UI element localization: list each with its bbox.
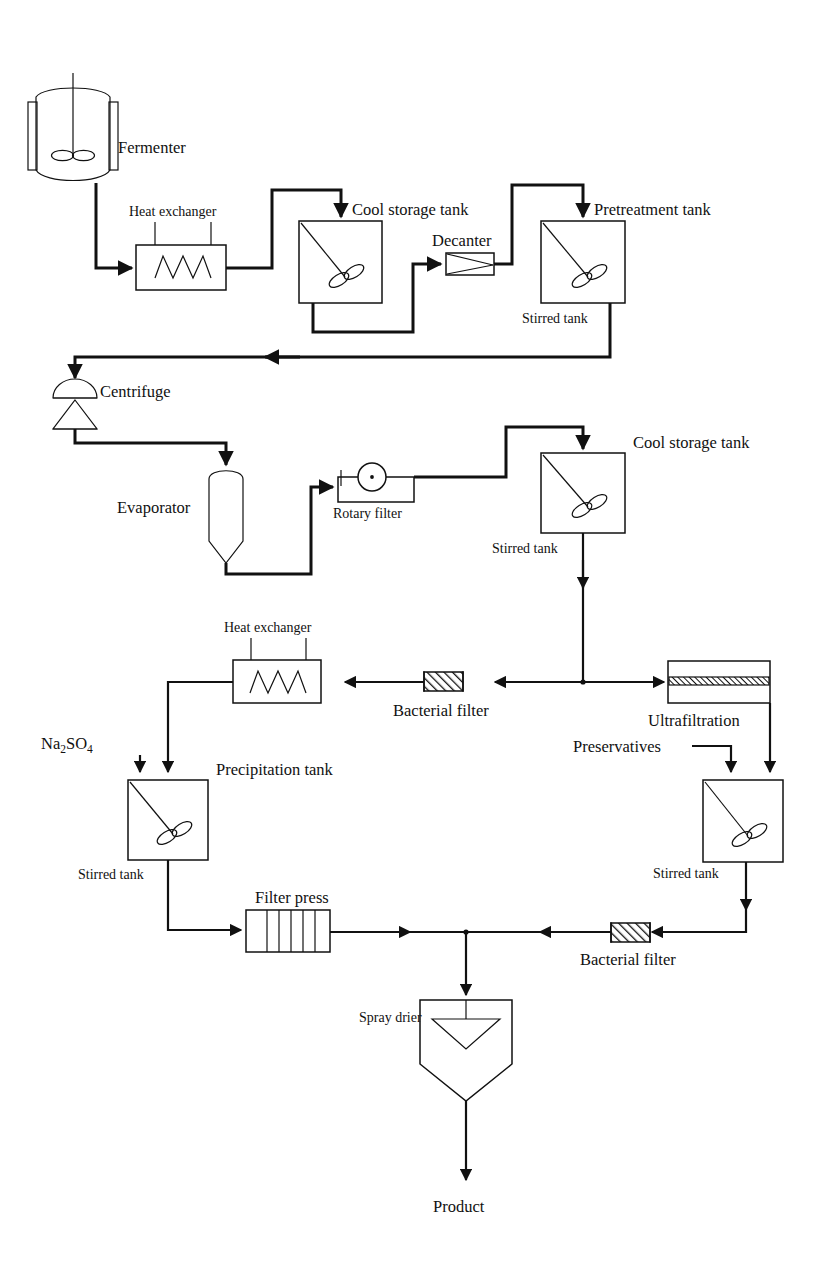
evaporator-label: Evaporator: [117, 498, 191, 517]
product-label: Product: [433, 1197, 485, 1216]
pipe-tank-to-bacterial-filter-lower: [652, 910, 746, 932]
spray-drier: Spray drier: [359, 1000, 512, 1101]
bacterial-filter-lower: Bacterial filter: [580, 923, 676, 969]
decanter-label: Decanter: [432, 231, 492, 250]
pfd-canvas: Fermenter Heat exchanger Cool storage ta…: [0, 0, 817, 1261]
centrifuge: Centrifuge: [53, 379, 171, 429]
spray-drier-label: Spray drier: [359, 1010, 422, 1025]
rotary-filter: Rotary filter: [333, 463, 414, 521]
fermenter-label: Fermenter: [118, 138, 186, 157]
bacterial-filter-lower-label: Bacterial filter: [580, 950, 676, 969]
pipe-centrifuge-to-evaporator: [75, 429, 226, 465]
pipe-evaporator-to-rotary-filter: [226, 487, 333, 574]
stirred-tank-2-label: Stirred tank: [492, 541, 558, 556]
filter-press: Filter press: [246, 888, 330, 952]
ultrafiltration-label: Ultrafiltration: [648, 711, 740, 730]
ultrafiltration: Ultrafiltration: [648, 661, 770, 730]
pipe-hx-to-precipitation: [168, 682, 233, 772]
preservatives-feed: Preservatives: [573, 737, 731, 772]
pretreatment-tank-label: Pretreatment tank: [594, 200, 712, 219]
stirred-tank-1-label: Stirred tank: [522, 311, 588, 326]
bacterial-filter-upper: Bacterial filter: [393, 672, 489, 720]
heat-exchanger-top: Heat exchanger: [129, 204, 226, 290]
rotary-filter-label: Rotary filter: [333, 506, 402, 521]
sodium-sulfate-feed: Na2SO4: [41, 734, 140, 772]
bacterial-filter-upper-label: Bacterial filter: [393, 701, 489, 720]
sodium-sulfate-label: Na2SO4: [41, 734, 93, 755]
pipe-precipitation-to-filter-press: [168, 860, 241, 930]
cool-storage-tank-top: Cool storage tank: [299, 200, 469, 303]
evaporator: Evaporator: [117, 471, 243, 563]
decanter: Decanter: [432, 231, 494, 275]
precipitation-tank-label: Precipitation tank: [216, 760, 334, 779]
fermenter: Fermenter: [28, 73, 186, 181]
heat-exchanger-bottom: Heat exchanger: [224, 620, 321, 703]
stream-junction-dot: [580, 679, 585, 684]
preservatives-label: Preservatives: [573, 737, 661, 756]
pretreatment-tank: Pretreatment tank Stirred tank: [522, 200, 712, 326]
stirred-tank-4-label: Stirred tank: [653, 866, 719, 881]
filter-press-label: Filter press: [255, 888, 329, 907]
centrifuge-label: Centrifuge: [100, 382, 171, 401]
heat-exchanger-top-label: Heat exchanger: [129, 204, 217, 219]
mixing-tank-right: Stirred tank: [653, 780, 783, 881]
cool-storage-tank-mid-label: Cool storage tank: [633, 433, 750, 452]
cool-storage-tank-mid: Cool storage tank Stirred tank: [492, 433, 750, 556]
pipe-fermenter-to-hx: [96, 183, 132, 268]
stirred-tank-3-label: Stirred tank: [78, 867, 144, 882]
pipe-preservatives-feed: [692, 746, 731, 772]
heat-exchanger-bottom-label: Heat exchanger: [224, 620, 312, 635]
process-flow-diagram: Fermenter Heat exchanger Cool storage ta…: [0, 0, 817, 1261]
precipitation-tank: Precipitation tank Stirred tank: [78, 760, 334, 882]
cool-storage-tank-top-label: Cool storage tank: [352, 200, 469, 219]
